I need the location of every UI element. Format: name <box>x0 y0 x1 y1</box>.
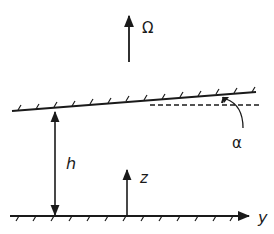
y-axis-label: y <box>257 208 268 227</box>
height-label: h <box>66 154 76 173</box>
angle-alpha-indicator <box>222 97 243 128</box>
omega-label: Ω <box>142 19 153 37</box>
channel-diagram: Ω α h z <box>0 0 274 234</box>
bottom-wall <box>10 216 249 221</box>
alpha-label: α <box>232 134 242 152</box>
z-axis-label: z <box>139 169 149 187</box>
top-wall <box>12 87 256 111</box>
